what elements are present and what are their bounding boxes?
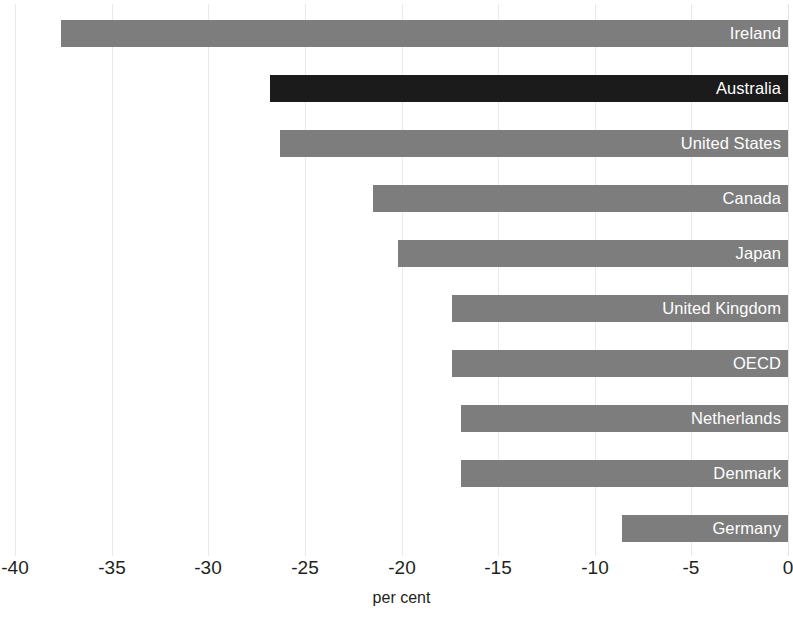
bar-label: United States — [681, 135, 781, 152]
bar-label: Denmark — [713, 465, 781, 482]
bar-united-states[interactable]: United States — [280, 130, 788, 157]
bar-united-kingdom[interactable]: United Kingdom — [452, 295, 788, 322]
x-tick-label: -35 — [98, 556, 125, 580]
bar-row: Denmark — [0, 460, 793, 487]
x-tick-label: -30 — [194, 556, 221, 580]
bar-label: OECD — [733, 355, 781, 372]
bar-row: OECD — [0, 350, 793, 377]
x-axis-title: per cent — [0, 588, 793, 608]
bar-canada[interactable]: Canada — [373, 185, 788, 212]
bar-netherlands[interactable]: Netherlands — [461, 405, 788, 432]
bar-label: Ireland — [730, 25, 781, 42]
bar-japan[interactable]: Japan — [398, 240, 788, 267]
x-axis: -40-35-30-25-20-15-10-50 — [0, 556, 793, 586]
x-axis-title-label: per cent — [373, 589, 431, 606]
bar-row: Netherlands — [0, 405, 793, 432]
bar-label: United Kingdom — [662, 300, 781, 317]
bar-germany[interactable]: Germany — [622, 515, 788, 542]
bar-row: United States — [0, 130, 793, 157]
plot-area: IrelandAustraliaUnited StatesCanadaJapan… — [0, 0, 793, 556]
bar-ireland[interactable]: Ireland — [61, 20, 788, 47]
bar-row: Australia — [0, 75, 793, 102]
x-tick-label: -25 — [291, 556, 318, 580]
bar-row: Canada — [0, 185, 793, 212]
bar-row: United Kingdom — [0, 295, 793, 322]
x-tick-label: -10 — [581, 556, 608, 580]
bar-oecd[interactable]: OECD — [452, 350, 788, 377]
bar-row: Germany — [0, 515, 793, 542]
x-tick-label: 0 — [783, 556, 793, 580]
x-tick-label: -40 — [1, 556, 28, 580]
bar-chart: IrelandAustraliaUnited StatesCanadaJapan… — [0, 0, 793, 618]
x-tick-label: -15 — [484, 556, 511, 580]
bar-label: Germany — [712, 520, 781, 537]
bar-row: Ireland — [0, 20, 793, 47]
bar-label: Netherlands — [691, 410, 781, 427]
x-tick-label: -20 — [388, 556, 415, 580]
bar-label: Canada — [723, 190, 781, 207]
bar-australia[interactable]: Australia — [270, 75, 788, 102]
bar-label: Japan — [736, 245, 781, 262]
bar-row: Japan — [0, 240, 793, 267]
bar-denmark[interactable]: Denmark — [461, 460, 788, 487]
x-tick-label: -5 — [683, 556, 700, 580]
bar-label: Australia — [716, 80, 781, 97]
